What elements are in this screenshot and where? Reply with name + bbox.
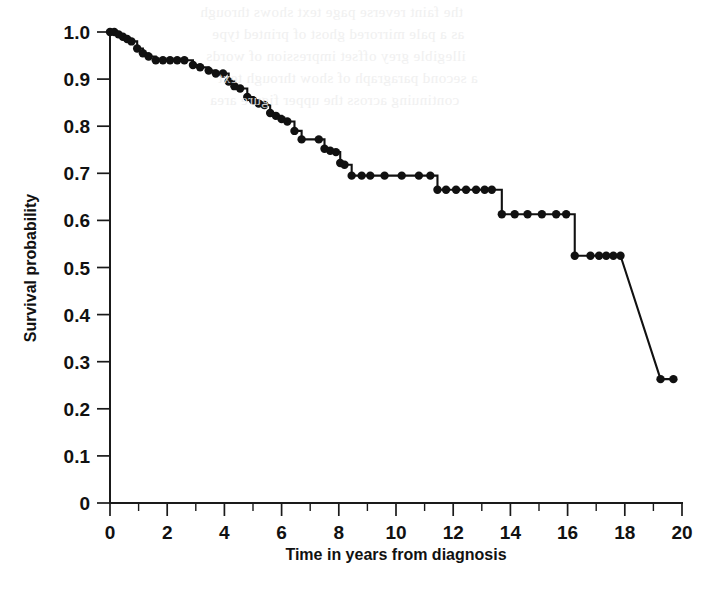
y-axis-title: Survival probability (22, 194, 39, 343)
censoring-mark (315, 135, 323, 143)
censoring-mark (297, 135, 305, 143)
censoring-mark (523, 210, 531, 218)
censoring-mark (152, 56, 160, 64)
y-axis-tick-labels: 00.10.20.30.40.50.60.70.80.91.0 (64, 22, 91, 514)
censoring-mark (127, 37, 135, 45)
censoring-mark (340, 161, 348, 169)
censoring-mark (189, 61, 197, 69)
censoring-mark (426, 171, 434, 179)
censoring-mark (380, 171, 388, 179)
censoring-mark (602, 252, 610, 260)
censoring-mark (498, 210, 506, 218)
censoring-mark (173, 56, 181, 64)
y-tick-label: 0.6 (64, 210, 90, 231)
x-tick-label: 20 (671, 522, 692, 543)
censoring-mark (144, 52, 152, 60)
y-tick-label: 0.5 (64, 258, 91, 279)
censoring-mark (510, 210, 518, 218)
x-tick-label: 18 (614, 522, 635, 543)
censoring-mark (332, 148, 340, 156)
censoring-mark (283, 117, 291, 125)
censoring-mark (196, 63, 204, 71)
censoring-mark (586, 252, 594, 260)
censoring-mark (562, 210, 570, 218)
y-tick-label: 0.2 (64, 399, 90, 420)
y-tick-label: 0.7 (64, 163, 90, 184)
censoring-mark (415, 171, 423, 179)
y-tick-label: 0.8 (64, 116, 90, 137)
censoring-mark (442, 186, 450, 194)
censoring-mark (609, 252, 617, 260)
censoring-mark (357, 171, 365, 179)
censoring-mark (552, 210, 560, 218)
censoring-mark (347, 171, 355, 179)
x-tick-label: 6 (276, 522, 287, 543)
survival-step-curve (110, 32, 673, 379)
y-tick-label: 0.3 (64, 352, 90, 373)
censoring-mark (595, 252, 603, 260)
censoring-mark (462, 186, 470, 194)
censoring-mark (260, 101, 268, 109)
y-tick-label: 1.0 (64, 22, 90, 43)
censoring-mark (366, 171, 374, 179)
censoring-mark (472, 186, 480, 194)
censoring-mark (212, 69, 220, 77)
censoring-mark (656, 375, 664, 383)
censoring-mark (538, 210, 546, 218)
x-tick-label: 12 (443, 522, 464, 543)
y-tick-label: 0.4 (64, 305, 91, 326)
censoring-mark (669, 375, 677, 383)
x-tick-label: 14 (500, 522, 522, 543)
x-tick-label: 16 (557, 522, 578, 543)
censoring-mark (398, 171, 406, 179)
survival-curve-figure: the faint reverse page text shows throug… (0, 0, 721, 597)
y-axis-tick-marks (97, 32, 110, 503)
kaplan-meier-chart: 00.10.20.30.40.50.60.70.80.91.0 02468101… (0, 0, 721, 597)
y-tick-label: 0 (79, 493, 90, 514)
y-tick-label: 0.1 (64, 446, 91, 467)
censoring-mark (571, 252, 579, 260)
x-tick-label: 2 (162, 522, 173, 543)
censoring-mark (180, 56, 188, 64)
censoring-mark (219, 69, 227, 77)
censoring-marks-group (106, 28, 678, 384)
censoring-mark (480, 186, 488, 194)
censoring-mark (290, 127, 298, 135)
x-tick-label: 4 (219, 522, 230, 543)
x-tick-label: 10 (385, 522, 406, 543)
x-tick-label: 8 (334, 522, 345, 543)
censoring-mark (159, 56, 167, 64)
x-axis-tick-labels: 02468101214161820 (105, 522, 693, 543)
censoring-mark (204, 66, 212, 74)
censoring-mark (236, 84, 244, 92)
censoring-mark (433, 186, 441, 194)
censoring-mark (488, 186, 496, 194)
x-axis-tick-marks (110, 503, 682, 516)
axis-frame (110, 32, 682, 503)
y-tick-label: 0.9 (64, 69, 90, 90)
x-tick-label: 0 (105, 522, 116, 543)
censoring-mark (166, 56, 174, 64)
censoring-mark (616, 252, 624, 260)
x-axis-title: Time in years from diagnosis (285, 546, 506, 563)
censoring-mark (452, 186, 460, 194)
